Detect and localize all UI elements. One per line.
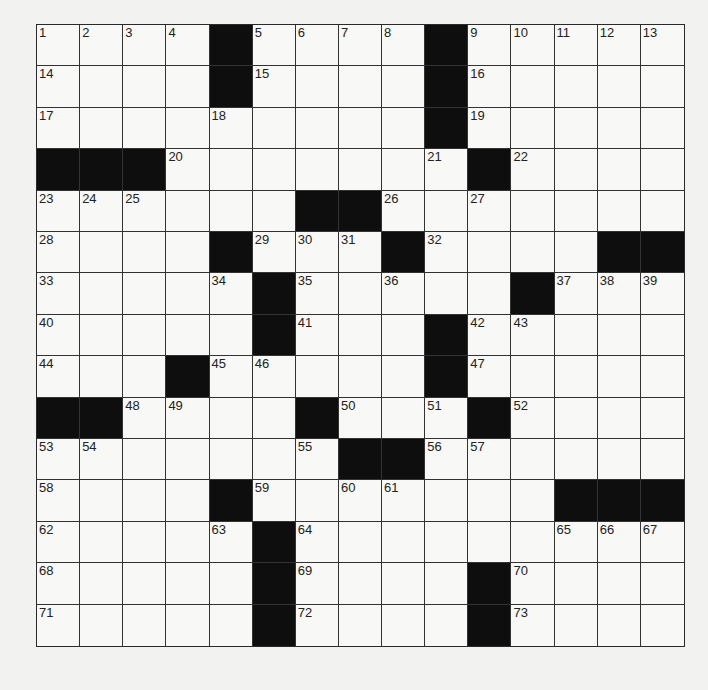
crossword-cell[interactable] (641, 108, 684, 149)
crossword-cell[interactable] (123, 315, 166, 356)
crossword-cell[interactable] (555, 563, 598, 604)
crossword-cell[interactable]: 55 (296, 439, 339, 480)
crossword-cell[interactable] (339, 108, 382, 149)
crossword-cell[interactable] (166, 273, 209, 314)
crossword-cell[interactable]: 41 (296, 315, 339, 356)
crossword-cell[interactable] (641, 398, 684, 439)
crossword-cell[interactable] (339, 522, 382, 563)
crossword-cell[interactable]: 39 (641, 273, 684, 314)
crossword-cell[interactable] (80, 356, 123, 397)
crossword-cell[interactable]: 28 (37, 232, 80, 273)
crossword-cell[interactable] (253, 439, 296, 480)
crossword-cell[interactable] (468, 480, 511, 521)
crossword-cell[interactable]: 66 (598, 522, 641, 563)
crossword-cell[interactable] (382, 315, 425, 356)
crossword-cell[interactable] (80, 522, 123, 563)
crossword-cell[interactable]: 21 (425, 149, 468, 190)
crossword-cell[interactable] (166, 480, 209, 521)
crossword-cell[interactable] (253, 191, 296, 232)
crossword-cell[interactable] (425, 605, 468, 646)
crossword-cell[interactable] (123, 273, 166, 314)
crossword-cell[interactable] (339, 149, 382, 190)
crossword-cell[interactable] (80, 315, 123, 356)
crossword-cell[interactable] (80, 605, 123, 646)
crossword-cell[interactable] (339, 563, 382, 604)
crossword-cell[interactable]: 6 (296, 25, 339, 66)
crossword-cell[interactable]: 16 (468, 66, 511, 107)
crossword-cell[interactable]: 42 (468, 315, 511, 356)
crossword-cell[interactable]: 64 (296, 522, 339, 563)
crossword-cell[interactable]: 59 (253, 480, 296, 521)
crossword-cell[interactable] (253, 149, 296, 190)
crossword-cell[interactable] (80, 563, 123, 604)
crossword-cell[interactable] (382, 108, 425, 149)
crossword-cell[interactable]: 71 (37, 605, 80, 646)
crossword-cell[interactable] (123, 563, 166, 604)
crossword-cell[interactable] (382, 605, 425, 646)
crossword-cell[interactable] (123, 66, 166, 107)
crossword-cell[interactable]: 19 (468, 108, 511, 149)
crossword-cell[interactable] (382, 356, 425, 397)
crossword-cell[interactable] (123, 232, 166, 273)
crossword-cell[interactable] (123, 439, 166, 480)
crossword-cell[interactable] (511, 232, 554, 273)
crossword-cell[interactable] (555, 439, 598, 480)
crossword-cell[interactable]: 4 (166, 25, 209, 66)
crossword-cell[interactable]: 72 (296, 605, 339, 646)
crossword-cell[interactable] (382, 563, 425, 604)
crossword-cell[interactable]: 13 (641, 25, 684, 66)
crossword-cell[interactable] (598, 108, 641, 149)
crossword-cell[interactable] (80, 232, 123, 273)
crossword-cell[interactable]: 46 (253, 356, 296, 397)
crossword-cell[interactable] (296, 356, 339, 397)
crossword-cell[interactable] (166, 605, 209, 646)
crossword-cell[interactable] (511, 439, 554, 480)
crossword-cell[interactable] (555, 149, 598, 190)
crossword-cell[interactable]: 70 (511, 563, 554, 604)
crossword-cell[interactable] (598, 563, 641, 604)
crossword-cell[interactable]: 52 (511, 398, 554, 439)
crossword-cell[interactable] (598, 398, 641, 439)
crossword-cell[interactable] (511, 356, 554, 397)
crossword-cell[interactable] (555, 108, 598, 149)
crossword-cell[interactable] (166, 563, 209, 604)
crossword-cell[interactable] (555, 605, 598, 646)
crossword-cell[interactable] (210, 439, 253, 480)
crossword-cell[interactable]: 9 (468, 25, 511, 66)
crossword-cell[interactable]: 30 (296, 232, 339, 273)
crossword-cell[interactable]: 50 (339, 398, 382, 439)
crossword-cell[interactable] (296, 480, 339, 521)
crossword-cell[interactable] (555, 191, 598, 232)
crossword-cell[interactable]: 27 (468, 191, 511, 232)
crossword-cell[interactable] (598, 149, 641, 190)
crossword-cell[interactable]: 12 (598, 25, 641, 66)
crossword-cell[interactable] (641, 439, 684, 480)
crossword-cell[interactable] (382, 522, 425, 563)
crossword-cell[interactable]: 22 (511, 149, 554, 190)
crossword-cell[interactable]: 10 (511, 25, 554, 66)
crossword-cell[interactable] (339, 66, 382, 107)
crossword-cell[interactable] (80, 273, 123, 314)
crossword-cell[interactable] (339, 356, 382, 397)
crossword-cell[interactable] (511, 108, 554, 149)
crossword-cell[interactable]: 34 (210, 273, 253, 314)
crossword-cell[interactable] (166, 108, 209, 149)
crossword-cell[interactable] (339, 315, 382, 356)
crossword-cell[interactable] (296, 66, 339, 107)
crossword-cell[interactable] (123, 522, 166, 563)
crossword-cell[interactable]: 29 (253, 232, 296, 273)
crossword-cell[interactable]: 36 (382, 273, 425, 314)
crossword-cell[interactable] (511, 191, 554, 232)
crossword-cell[interactable] (166, 439, 209, 480)
crossword-cell[interactable] (511, 522, 554, 563)
crossword-cell[interactable] (598, 439, 641, 480)
crossword-cell[interactable]: 8 (382, 25, 425, 66)
crossword-cell[interactable] (598, 605, 641, 646)
crossword-cell[interactable] (555, 232, 598, 273)
crossword-cell[interactable] (382, 398, 425, 439)
crossword-cell[interactable] (425, 191, 468, 232)
crossword-cell[interactable] (80, 480, 123, 521)
crossword-cell[interactable] (166, 191, 209, 232)
crossword-cell[interactable]: 15 (253, 66, 296, 107)
crossword-cell[interactable] (641, 315, 684, 356)
